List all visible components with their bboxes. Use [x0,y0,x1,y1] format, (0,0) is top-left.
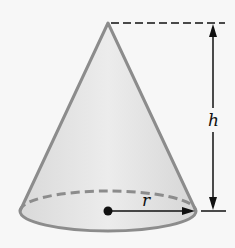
cone-body [20,23,196,231]
height-arrow-down-icon [209,197,217,210]
cone-diagram: h r [0,0,235,248]
height-arrow-up-icon [209,24,217,37]
radius-label: r [142,190,151,210]
height-label: h [208,110,219,130]
cone-figure: h r [0,0,235,248]
